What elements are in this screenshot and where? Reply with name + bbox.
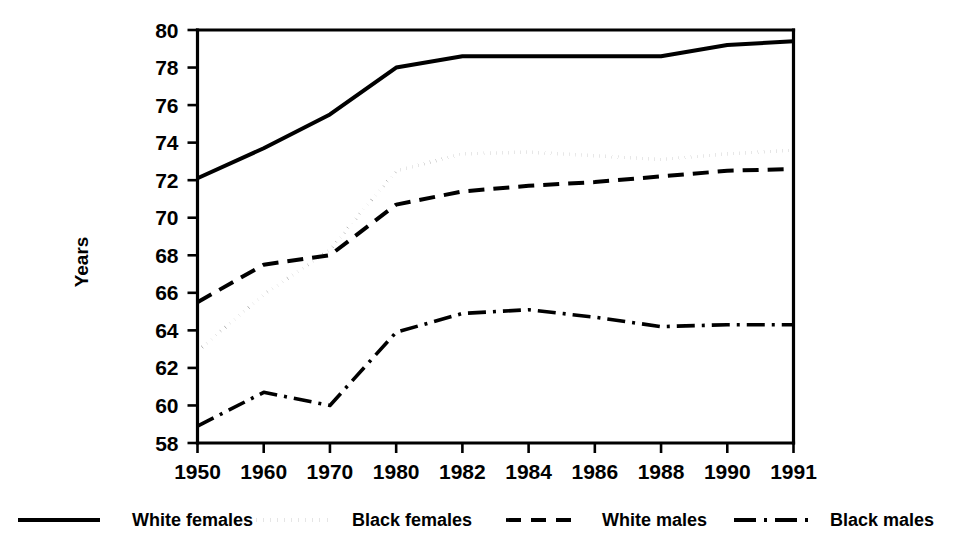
- legend-label-black-females: Black females: [352, 510, 472, 530]
- y-axis-ticks: 586062646668707274767880: [155, 19, 197, 455]
- series-line-black-females: [198, 150, 794, 351]
- y-tick-label: 80: [155, 19, 178, 42]
- x-tick-label: 1980: [373, 460, 420, 483]
- x-tick-label: 1990: [704, 460, 751, 483]
- life-expectancy-line-chart: 586062646668707274767880 195019601970198…: [0, 0, 956, 552]
- x-tick-label: 1950: [174, 460, 221, 483]
- x-tick-label: 1984: [505, 460, 552, 483]
- series-line-black-males: [198, 310, 794, 426]
- y-tick-label: 66: [155, 281, 178, 304]
- y-axis-title-label: Years: [71, 237, 92, 288]
- series-line-white-females: [198, 41, 794, 178]
- x-tick-label: 1988: [638, 460, 685, 483]
- chart-canvas: 586062646668707274767880 195019601970198…: [0, 0, 956, 552]
- chart-legend: White femalesBlack femalesWhite malesBla…: [18, 510, 934, 530]
- y-tick-label: 64: [155, 319, 179, 342]
- y-tick-label: 58: [155, 432, 179, 455]
- y-tick-label: 68: [155, 244, 179, 267]
- y-tick-label: 76: [155, 94, 178, 117]
- x-tick-label: 1960: [240, 460, 287, 483]
- x-tick-label: 1986: [571, 460, 618, 483]
- y-tick-label: 72: [155, 169, 178, 192]
- legend-label-black-males: Black males: [830, 510, 934, 530]
- x-tick-label: 1991: [770, 460, 817, 483]
- y-tick-label: 60: [155, 394, 178, 417]
- data-series-group: [198, 41, 794, 426]
- plot-frame: [198, 30, 794, 443]
- x-tick-label: 1982: [439, 460, 486, 483]
- y-tick-label: 78: [155, 56, 179, 79]
- legend-label-white-females: White females: [132, 510, 253, 530]
- legend-label-white-males: White males: [602, 510, 707, 530]
- y-tick-label: 74: [155, 131, 179, 154]
- x-axis-ticks: 1950196019701980198219841986198819901991: [174, 443, 817, 483]
- x-tick-label: 1970: [307, 460, 354, 483]
- y-tick-label: 70: [155, 206, 178, 229]
- series-line-white-males: [198, 169, 794, 302]
- y-axis-title: Years: [71, 237, 92, 288]
- y-tick-label: 62: [155, 356, 178, 379]
